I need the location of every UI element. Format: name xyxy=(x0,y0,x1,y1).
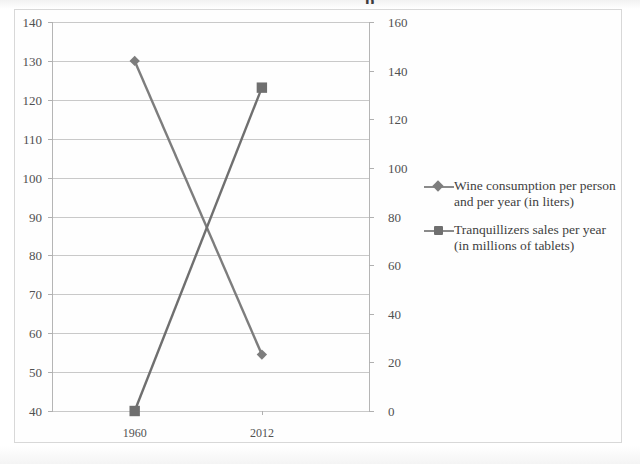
x-axis-tick xyxy=(262,411,263,415)
legend-item-wine[interactable]: Wine consumption per person and per year… xyxy=(424,178,624,209)
series-layer xyxy=(52,22,370,411)
right-axis-tick-label: 20 xyxy=(388,356,428,369)
gridline xyxy=(52,411,370,412)
diamond-marker-icon xyxy=(424,179,454,194)
series-line-1 xyxy=(135,61,262,355)
right-axis-tick-label: 0 xyxy=(388,405,428,418)
chart-legend: Wine consumption per person and per year… xyxy=(424,178,624,266)
left-axis-tick-label: 60 xyxy=(0,327,42,340)
scan-edge-bottom xyxy=(0,446,640,464)
left-axis-tick-label: 110 xyxy=(0,133,42,146)
plot-area xyxy=(52,22,370,411)
left-axis-tick-label: 120 xyxy=(0,94,42,107)
square-marker-icon xyxy=(129,406,139,416)
left-axis-tick-label: 70 xyxy=(0,288,42,301)
left-axis-tick-label: 90 xyxy=(0,211,42,224)
x-axis-tick-label: 2012 xyxy=(232,427,292,439)
right-axis-tick-label: 160 xyxy=(388,16,428,29)
series-line-2 xyxy=(135,88,262,411)
left-axis-tick-label: 140 xyxy=(0,16,42,29)
left-axis-tick xyxy=(48,411,53,412)
right-axis-tick-label: 100 xyxy=(388,162,428,175)
right-axis-tick-label: 120 xyxy=(388,113,428,126)
right-axis-tick-label: 60 xyxy=(388,259,428,272)
legend-label-wine: Wine consumption per person and per year… xyxy=(454,178,624,209)
right-axis-tick-label: 40 xyxy=(388,308,428,321)
left-axis-tick-label: 100 xyxy=(0,172,42,185)
square-marker-icon xyxy=(257,82,267,92)
left-axis-tick-label: 80 xyxy=(0,249,42,262)
right-axis-tick-label: 80 xyxy=(388,211,428,224)
right-axis-tick-label: 140 xyxy=(388,65,428,78)
x-axis-tick-label: 1960 xyxy=(105,427,165,439)
diamond-marker-icon xyxy=(257,349,267,359)
chart-page: p 405060708090100110120130140 0204060801… xyxy=(0,0,640,464)
clipped-chart-title: p xyxy=(250,0,490,4)
right-axis-tick xyxy=(369,411,374,412)
left-axis-tick-label: 130 xyxy=(0,55,42,68)
legend-item-tranquillizers[interactable]: Tranquillizers sales per year (in millio… xyxy=(424,222,624,253)
square-marker-icon xyxy=(424,223,454,238)
legend-label-tranquillizers: Tranquillizers sales per year (in millio… xyxy=(454,222,624,253)
left-axis-tick-label: 40 xyxy=(0,405,42,418)
left-axis-tick-label: 50 xyxy=(0,366,42,379)
diamond-marker-icon xyxy=(129,56,139,66)
